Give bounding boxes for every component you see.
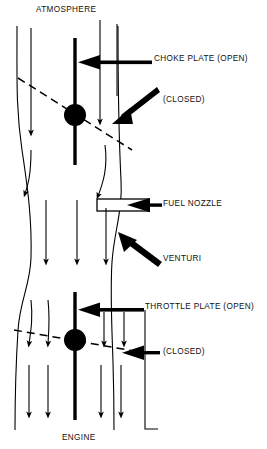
label-choke-plate-closed: (CLOSED)	[163, 96, 205, 104]
airflow-arrow-curved	[48, 300, 49, 344]
throttle-closed-leader	[122, 346, 160, 361]
choke-closed-leader	[112, 87, 160, 124]
label-throttle-plate-closed: (CLOSED)	[163, 348, 205, 356]
choke-plate-pivot-hub	[64, 104, 86, 126]
throttle-closed-arrowhead	[122, 346, 144, 361]
carburetor-schematic-svg	[0, 0, 267, 449]
label-throttle-plate-open: THROTTLE PLATE (OPEN)	[145, 303, 254, 311]
choke-plate-assembly	[18, 38, 132, 165]
choke-open-leader-shaft	[96, 61, 152, 65]
airflow-arrow-curved	[98, 145, 106, 196]
carburetor-diagram: ATMOSPHERE ENGINE CHOKE PLATE (OPEN) (CL…	[0, 0, 267, 449]
choke-open-arrowhead	[78, 55, 100, 70]
bore-wall-right	[111, 26, 121, 430]
right-bracket	[145, 310, 158, 429]
choke-open-leader	[78, 55, 152, 70]
choke-closed-arrowhead	[112, 108, 133, 124]
venturi-leader	[118, 232, 162, 267]
label-engine: ENGINE	[62, 434, 96, 442]
throttle-open-arrowhead	[78, 303, 100, 318]
label-choke-plate-open: CHOKE PLATE (OPEN)	[154, 55, 248, 63]
label-fuel-nozzle: FUEL NOZZLE	[163, 200, 222, 208]
diagram-bracket-lines	[145, 310, 158, 429]
throttle-plate-pivot-hub	[64, 329, 86, 351]
label-atmosphere: ATMOSPHERE	[36, 6, 96, 14]
airflow-arrow-curved	[29, 300, 32, 344]
airflow-arrow-curved	[25, 150, 31, 194]
throttle-open-leader-shaft	[96, 308, 144, 312]
label-venturi: VENTURI	[163, 255, 201, 263]
